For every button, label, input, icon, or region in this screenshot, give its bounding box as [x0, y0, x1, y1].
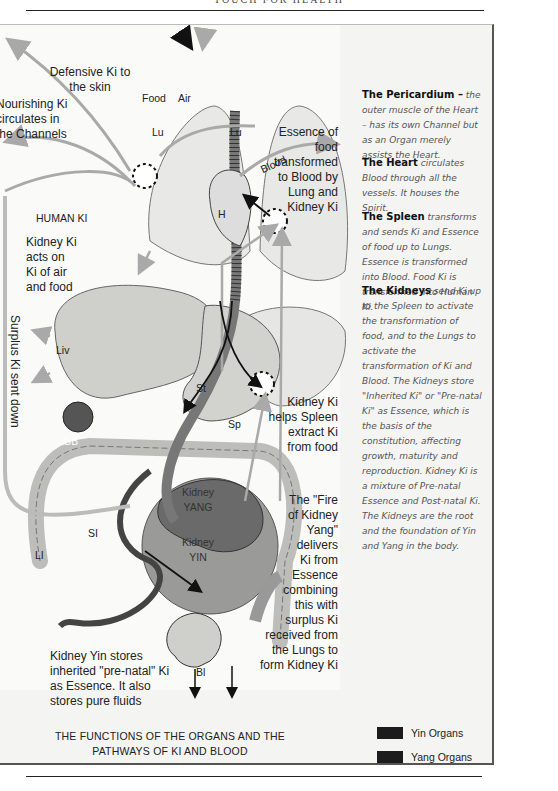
label-liver: Liv [56, 343, 69, 358]
label-food: Food [142, 91, 166, 106]
label-small-intestine: SI [88, 526, 98, 541]
annotation-kidney-ki-acts: Kidney Ki acts on Ki of air and food [26, 235, 77, 295]
legend-yang-organs: Yang Organs [377, 751, 472, 763]
annotation-essence-food: Essence of food transformed to Blood by … [258, 125, 338, 215]
diagram-panel: Food Air Lu Lu Blood H HUMAN KI Liv St S… [0, 24, 494, 765]
label-gall-bladder: GB [63, 434, 78, 449]
yin-swatch-icon [377, 727, 403, 739]
label-bladder: Bl [196, 665, 205, 680]
human-ki-burst [133, 164, 157, 188]
bladder [167, 613, 221, 667]
running-head: TOUCH FOR HEALTH [0, 0, 558, 5]
sidebar-pericardium: The Pericardium – the outer muscle of th… [362, 87, 482, 163]
label-stomach: St [196, 381, 206, 396]
annotation-defensive-ki: Defensive Ki to the skin [40, 65, 140, 95]
annotation-surplus-ki: Surplus Ki sent down [7, 315, 22, 428]
annotation-kidney-helps-spleen: Kidney Ki helps Spleen extract Ki from f… [258, 395, 338, 455]
sidebar-heart: The Heart circulates Blood through all t… [362, 155, 482, 216]
label-air: Air [178, 91, 191, 106]
legend-yin-organs: Yin Organs [377, 727, 463, 739]
yang-swatch-icon [377, 751, 403, 763]
diagram-caption: THE FUNCTIONS OF THE ORGANS AND THE PATH… [40, 729, 300, 759]
annotation-kidney-yin-stores: Kidney Yin stores inherited "pre-natal" … [50, 649, 169, 709]
bottom-rule [26, 776, 482, 777]
top-rule [26, 10, 484, 11]
label-kidney-yang: Kidney YANG [178, 485, 218, 515]
label-human-ki: HUMAN KI [36, 211, 87, 226]
label-large-intestine: LI [35, 548, 44, 563]
annotation-fire-kidney-yang: The "Fire of Kidney Yang" delivers Ki fr… [258, 493, 338, 673]
sidebar-kidneys: The Kidneys send Ki up to the Spleen to … [362, 283, 482, 554]
gall-bladder [63, 402, 93, 432]
label-heart: H [218, 207, 226, 222]
label-lung-right: Lu [230, 125, 242, 140]
label-spleen: Sp [228, 417, 241, 432]
spleen-ki-burst [250, 372, 274, 396]
annotation-nourishing-ki: Nourishing Ki circulates in the Channels [0, 97, 67, 142]
label-kidney-yin: Kidney YIN [178, 535, 218, 565]
label-lung-left: Lu [152, 125, 164, 140]
